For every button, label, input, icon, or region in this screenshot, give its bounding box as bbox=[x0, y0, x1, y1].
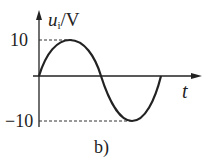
x-axis-label: t bbox=[182, 81, 188, 101]
tick-label-minus-10: −10 bbox=[5, 112, 33, 130]
x-axis-arrow-icon bbox=[191, 73, 202, 79]
tick-label-10: 10 bbox=[10, 31, 28, 49]
y-axis-label: ui/V bbox=[48, 10, 80, 31]
sine-wave-figure: ui/V 10 −10 t b) bbox=[0, 0, 207, 164]
figure-caption: b) bbox=[94, 138, 109, 156]
y-axis-arrow-icon bbox=[36, 10, 42, 20]
sine-curve bbox=[39, 40, 161, 121]
